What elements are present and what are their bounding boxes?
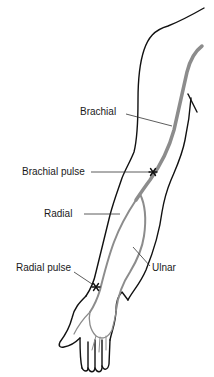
- ulnar-artery: [116, 194, 145, 310]
- label-brachial: Brachial: [80, 106, 116, 118]
- radial-pulse-marker-icon: [92, 284, 100, 291]
- leader-lines: [74, 114, 172, 284]
- label-brachial-pulse: Brachial pulse: [22, 166, 85, 178]
- brachial-artery: [136, 46, 202, 200]
- label-radial-pulse: Radial pulse: [16, 262, 71, 274]
- label-radial: Radial: [44, 208, 72, 220]
- radial-artery: [90, 200, 136, 312]
- arm-outline: [59, 8, 204, 372]
- leader-radial-pulse: [74, 272, 92, 284]
- arm-diagram: [0, 0, 214, 377]
- label-ulnar: Ulnar: [152, 262, 176, 274]
- pulse-markers: [92, 169, 157, 291]
- leader-brachial: [126, 114, 172, 126]
